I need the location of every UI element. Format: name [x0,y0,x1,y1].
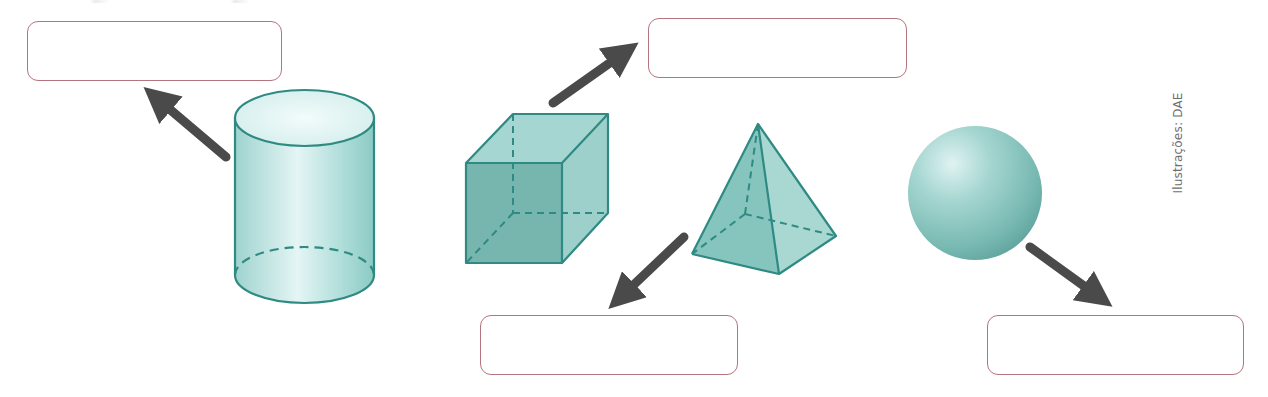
solids-illustration [0,0,1268,397]
arrow-pyramid-to-box [624,237,684,294]
arrow-cube-to-box [553,55,621,103]
arrow-sphere-to-box [1030,247,1095,294]
cylinder-solid [235,90,374,303]
sphere-solid [908,126,1042,260]
geometric-solids-exercise: Ilustrações: DAE [0,0,1268,397]
illustration-credit: Ilustrações: DAE [1171,92,1185,193]
arrow-cylinder-to-box [160,101,226,157]
pyramid-solid [692,124,836,274]
cube-solid [466,114,608,263]
